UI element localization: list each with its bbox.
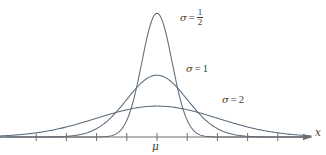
sigma-symbol: σ xyxy=(180,12,187,23)
equals-symbol: = xyxy=(231,94,237,105)
mu-axis-label: μ xyxy=(152,141,159,152)
sigma-symbol: σ xyxy=(222,94,229,105)
sigma-value: 2 xyxy=(239,94,244,105)
fraction-denominator: 2 xyxy=(197,18,204,27)
equals-symbol: = xyxy=(195,63,201,74)
series-label-sigma-one: σ=1 xyxy=(186,64,208,75)
sigma-value: 1 xyxy=(203,63,208,74)
fraction-one-half: 12 xyxy=(197,8,204,27)
series-label-sigma-two: σ=2 xyxy=(222,95,244,106)
curves-group xyxy=(0,13,311,137)
curve-sigma-2 xyxy=(0,106,311,136)
x-axis-label: x xyxy=(315,127,321,138)
x-axis-arrow-icon xyxy=(303,134,312,140)
series-label-sigma-half: σ=12 xyxy=(180,8,203,27)
plot-area xyxy=(0,0,326,155)
normal-distribution-figure: σ=12 σ=1 σ=2 μ x xyxy=(0,0,326,155)
equals-symbol: = xyxy=(189,12,195,23)
sigma-symbol: σ xyxy=(186,63,193,74)
x-axis-group xyxy=(6,133,312,141)
